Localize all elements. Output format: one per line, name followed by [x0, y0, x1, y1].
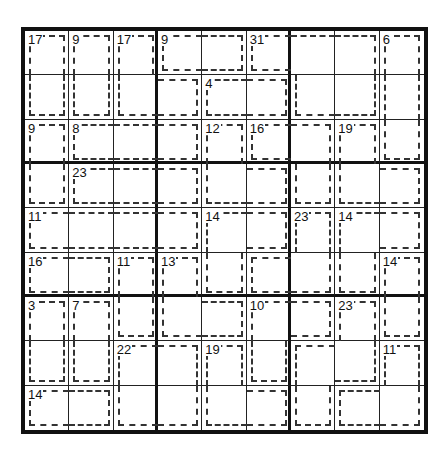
cell-r7c9[interactable]: [380, 297, 424, 341]
cell-r2c3[interactable]: [114, 75, 158, 119]
cell-r7c4[interactable]: [158, 297, 202, 341]
cell-r6c7[interactable]: [291, 253, 335, 297]
cage-sum-label: 6: [382, 33, 391, 46]
cell-r4c4[interactable]: [158, 164, 202, 208]
cell-r4c6[interactable]: [247, 164, 291, 208]
cage-sum-label: 17: [116, 33, 132, 46]
cell-r2c9[interactable]: [380, 75, 424, 119]
cell-r9c9[interactable]: [380, 386, 424, 430]
cell-r9c6[interactable]: [247, 386, 291, 430]
cage-sum-label: 23: [71, 166, 87, 179]
cage-sum-label: 11: [382, 343, 398, 356]
cell-r2c8[interactable]: [335, 75, 379, 119]
cell-r3c9[interactable]: [380, 120, 424, 164]
cell-r6c6[interactable]: [247, 253, 291, 297]
cell-r5c6[interactable]: [247, 208, 291, 252]
cell-r2c4[interactable]: [158, 75, 202, 119]
cell-r8c7[interactable]: [291, 341, 335, 385]
cage-sum-label: 11: [116, 255, 132, 268]
cage-sum-label: 10: [249, 299, 265, 312]
cell-r2c2[interactable]: [69, 75, 113, 119]
cell-r8c4[interactable]: [158, 341, 202, 385]
cage-sum-label: 9: [27, 122, 36, 135]
cell-r4c1[interactable]: [25, 164, 69, 208]
cell-r1c7[interactable]: [291, 31, 335, 75]
cage-sum-label: 19: [337, 122, 353, 135]
cell-r9c3[interactable]: [114, 386, 158, 430]
cell-r4c3[interactable]: [114, 164, 158, 208]
cage-sum-label: 14: [337, 210, 353, 223]
cage-sum-label: 16: [249, 122, 265, 135]
cell-r4c8[interactable]: [335, 164, 379, 208]
cage-sum-label: 3: [27, 299, 36, 312]
cell-r9c8[interactable]: [335, 386, 379, 430]
cage-sum-label: 9: [71, 33, 80, 46]
cage-sum-label: 13: [160, 255, 176, 268]
cell-r6c5[interactable]: [202, 253, 246, 297]
cell-r5c4[interactable]: [158, 208, 202, 252]
cage-sum-label: 14: [204, 210, 220, 223]
cage-sum-label: 12: [204, 122, 220, 135]
cell-r7c5[interactable]: [202, 297, 246, 341]
cage-sum-label: 14: [27, 388, 43, 401]
cell-r9c4[interactable]: [158, 386, 202, 430]
cage-sum-label: 9: [160, 33, 169, 46]
cell-r9c7[interactable]: [291, 386, 335, 430]
cell-r8c8[interactable]: [335, 341, 379, 385]
cell-r8c1[interactable]: [25, 341, 69, 385]
cell-r1c5[interactable]: [202, 31, 246, 75]
cell-r1c8[interactable]: [335, 31, 379, 75]
cell-r5c9[interactable]: [380, 208, 424, 252]
cage-sum-label: 23: [293, 210, 309, 223]
cell-r4c5[interactable]: [202, 164, 246, 208]
cell-r8c2[interactable]: [69, 341, 113, 385]
cell-r3c3[interactable]: [114, 120, 158, 164]
cage-sum-label: 19: [204, 343, 220, 356]
cage-sum-label: 31: [249, 33, 265, 46]
cell-r8c6[interactable]: [247, 341, 291, 385]
cell-r3c4[interactable]: [158, 120, 202, 164]
cell-r3c7[interactable]: [291, 120, 335, 164]
cell-r9c2[interactable]: [69, 386, 113, 430]
cell-r5c2[interactable]: [69, 208, 113, 252]
cage-sum-label: 22: [116, 343, 132, 356]
cell-r4c9[interactable]: [380, 164, 424, 208]
cell-r2c6[interactable]: [247, 75, 291, 119]
cell-r5c3[interactable]: [114, 208, 158, 252]
cell-r6c8[interactable]: [335, 253, 379, 297]
cell-r2c1[interactable]: [25, 75, 69, 119]
cage-sum-label: 11: [27, 210, 43, 223]
cage-sum-label: 14: [382, 255, 398, 268]
killer-sudoku-board: 1791793164981216192311142314161113143710…: [21, 27, 428, 434]
cell-r9c5[interactable]: [202, 386, 246, 430]
cage-sum-label: 7: [71, 299, 80, 312]
cage-sum-label: 4: [204, 77, 213, 90]
cell-r6c2[interactable]: [69, 253, 113, 297]
cage-sum-label: 8: [71, 122, 80, 135]
cell-r2c7[interactable]: [291, 75, 335, 119]
cell-r4c7[interactable]: [291, 164, 335, 208]
cage-sum-label: 17: [27, 33, 43, 46]
cell-r7c7[interactable]: [291, 297, 335, 341]
cage-sum-label: 16: [27, 255, 43, 268]
cell-r7c3[interactable]: [114, 297, 158, 341]
cage-sum-label: 23: [337, 299, 353, 312]
